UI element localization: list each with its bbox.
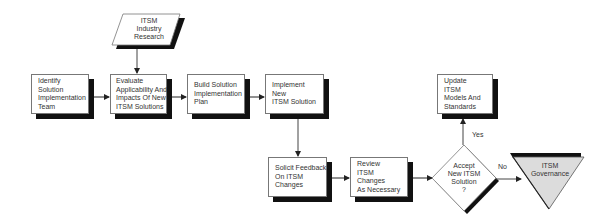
node-line: Impacts Of New — [116, 94, 166, 103]
node-line: As Necessary — [357, 186, 407, 195]
node-line: Models And — [444, 94, 492, 103]
identify-team-node: Identify Solution Implementation Team — [31, 74, 89, 114]
node-line: Team — [38, 103, 88, 112]
review-changes-node: Review ITSM Changes As Necessary — [350, 157, 408, 197]
update-models-node: Update ITSM Models And Standards — [437, 74, 493, 114]
evaluate-node: Evaluate Applicability And Impacts Of Ne… — [110, 74, 167, 114]
node-line: Build Solution — [194, 81, 244, 90]
yes-edge-label: Yes — [472, 131, 483, 139]
no-edge-label: No — [498, 163, 507, 171]
node-line: New ITSM — [440, 170, 488, 178]
governance-label: ITSM Governance — [523, 162, 577, 178]
node-line: Review — [357, 160, 407, 169]
node-line: Implement — [272, 81, 323, 90]
node-line: ITSM Solution — [272, 98, 323, 107]
node-line: Applicability And — [116, 86, 166, 95]
research-node-label: ITSM Industry Research — [126, 17, 172, 41]
node-line: ITSM Solutions — [116, 103, 166, 112]
build-plan-node: Build Solution Implementation Plan — [187, 74, 245, 114]
node-line: Changes — [357, 177, 407, 186]
node-line: ? — [440, 186, 488, 194]
accept-decision-label: Accept New ITSM Solution ? — [440, 162, 488, 194]
research-line: Industry — [126, 25, 172, 33]
node-line: Governance — [523, 170, 577, 178]
node-line: Evaluate — [116, 77, 166, 86]
node-line: New — [272, 90, 323, 99]
node-line: Plan — [194, 98, 244, 107]
node-line: On ITSM — [275, 173, 326, 182]
node-line: Solution — [38, 86, 88, 95]
node-line: Solicit Feedback — [275, 164, 326, 173]
node-line: ITSM — [444, 86, 492, 95]
node-line: Standards — [444, 103, 492, 112]
research-line: ITSM — [126, 17, 172, 25]
node-line: Identify — [38, 77, 88, 86]
node-line: Solution — [440, 178, 488, 186]
node-line: Accept — [440, 162, 488, 170]
implement-node: Implement New ITSM Solution — [265, 74, 324, 114]
node-line: ITSM — [523, 162, 577, 170]
node-line: Implementation — [194, 90, 244, 99]
node-line: ITSM — [357, 169, 407, 178]
solicit-feedback-node: Solicit Feedback On ITSM Changes — [268, 157, 327, 197]
node-line: Implementation — [38, 94, 88, 103]
research-line: Research — [126, 33, 172, 41]
node-line: Update — [444, 77, 492, 86]
node-line: Changes — [275, 181, 326, 190]
